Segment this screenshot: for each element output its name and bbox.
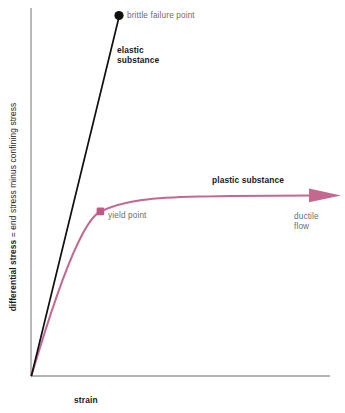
plastic-substance-label: plastic substance: [212, 176, 284, 186]
brittle-failure-point-label: brittle failure point: [127, 11, 195, 21]
stress-strain-diagram: brittle failure point elastic substance …: [0, 0, 345, 413]
plastic-substance-curve: [32, 195, 311, 375]
y-axis-title-container: differential stress = end stress minus c…: [0, 0, 26, 413]
y-axis-title: differential stress = end stress minus c…: [8, 102, 18, 311]
ductile-flow-label: ductile flow: [294, 212, 319, 231]
yield-point-marker: [97, 208, 105, 216]
x-axis-title: strain: [74, 396, 98, 406]
y-axis-title-rest-part: = end stress minus confining stress: [8, 102, 18, 239]
yield-point-label: yield point: [108, 211, 147, 221]
elastic-substance-label: elastic substance: [117, 46, 159, 66]
ductile-flow-arrowhead: [309, 189, 341, 203]
y-axis-title-bold-part: differential stress: [8, 239, 18, 311]
elastic-substance-line: [32, 17, 120, 376]
brittle-failure-point-marker: [114, 11, 123, 20]
plot-canvas: [0, 0, 345, 413]
